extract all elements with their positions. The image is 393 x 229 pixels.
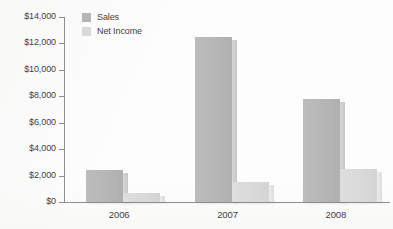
- y-axis-tick-label: $0: [4, 196, 56, 206]
- bar-2006-net-income[interactable]: [123, 193, 160, 202]
- bar-2008-sales[interactable]: [303, 99, 340, 202]
- bar-3d-edge: [377, 172, 382, 202]
- bar-face: [303, 99, 340, 202]
- bar-group-2008: [303, 17, 377, 202]
- legend-item-sales[interactable]: Sales: [82, 11, 142, 23]
- bar-group-2006: [86, 17, 160, 202]
- y-axis-labels: $0$2,000$4,000$6,000$8,000$10,000$12,000…: [0, 0, 56, 229]
- y-axis-tick-label: $8,000: [4, 90, 56, 100]
- x-axis-tick-label: 2008: [325, 209, 346, 220]
- y-axis-tick-label: $12,000: [4, 37, 56, 47]
- bar-face: [232, 182, 269, 202]
- legend-item-label: Net Income: [97, 26, 142, 36]
- bar-2007-net-income[interactable]: [232, 182, 269, 202]
- y-axis-tick-label: $10,000: [4, 64, 56, 74]
- legend-swatch-icon: [82, 13, 91, 22]
- bar-2006-sales[interactable]: [86, 170, 123, 202]
- y-axis-tick-label: $6,000: [4, 117, 56, 127]
- bar-3d-edge: [269, 185, 274, 202]
- x-axis-tick-label: 2007: [217, 209, 238, 220]
- legend-item-label: Sales: [97, 12, 119, 22]
- legend-item-net-income[interactable]: Net Income: [82, 25, 142, 37]
- bar-face: [86, 170, 123, 202]
- y-axis-tick-label: $2,000: [4, 170, 56, 180]
- bar-face: [123, 193, 160, 202]
- bar-3d-edge: [160, 196, 165, 202]
- bar-2007-sales[interactable]: [195, 37, 232, 202]
- y-axis-tick-label: $14,000: [4, 11, 56, 21]
- bar-group-2007: [195, 17, 269, 202]
- legend-swatch-icon: [82, 27, 91, 36]
- bar-chart: $0$2,000$4,000$6,000$8,000$10,000$12,000…: [0, 0, 393, 229]
- y-axis-tick-label: $4,000: [4, 143, 56, 153]
- bar-3d-edge: [232, 40, 237, 202]
- bar-face: [340, 169, 377, 202]
- x-axis-tick-label: 2006: [109, 209, 130, 220]
- chart-legend: SalesNet Income: [82, 11, 142, 39]
- plot-area: [65, 17, 390, 202]
- bar-face: [195, 37, 232, 202]
- bar-2008-net-income[interactable]: [340, 169, 377, 202]
